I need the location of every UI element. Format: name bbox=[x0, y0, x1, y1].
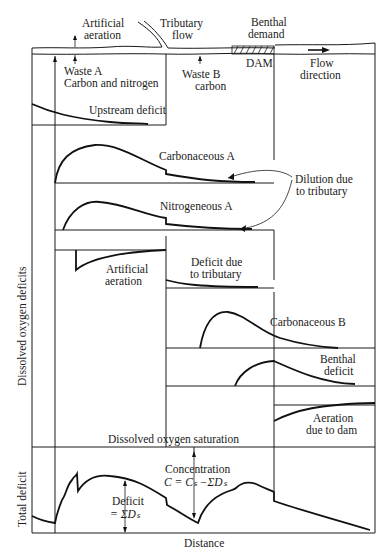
flow-direction-label: Flow bbox=[310, 57, 334, 69]
carbonaceous-a-label: Carbonaceous A bbox=[159, 150, 235, 162]
deficit-formula: = ΣDₛ bbox=[110, 508, 141, 520]
benthal-demand-label: Benthal bbox=[251, 16, 287, 28]
aeration-dam-label: Aeration bbox=[313, 412, 353, 424]
concentration-formula: C = Cₛ −ΣDₛ bbox=[164, 476, 228, 488]
svg-text:to tributary: to tributary bbox=[296, 185, 348, 198]
deficit-label: Deficit bbox=[112, 495, 145, 507]
y-axis-label-upper: Dissolved oxygen deficits bbox=[16, 266, 29, 386]
svg-text:Carbon and nitrogen: Carbon and nitrogen bbox=[64, 77, 159, 90]
x-axis-label: Distance bbox=[184, 537, 224, 549]
svg-text:aeration: aeration bbox=[84, 29, 121, 41]
tributary-deficit-curve bbox=[166, 280, 258, 287]
deficit-tributary-label: Deficit due bbox=[191, 256, 242, 268]
concentration-label: Concentration bbox=[165, 463, 230, 475]
svg-text:carbon: carbon bbox=[195, 80, 227, 92]
svg-text:direction: direction bbox=[300, 69, 341, 81]
frame bbox=[32, 54, 375, 533]
carbonaceous-b-label: Carbonaceous B bbox=[270, 316, 346, 328]
svg-text:deficit: deficit bbox=[324, 365, 354, 377]
waste-b-label: Waste B bbox=[182, 68, 221, 80]
svg-text:to tributary: to tributary bbox=[190, 268, 242, 281]
artificial-aeration-panel-label: Artificial bbox=[106, 263, 148, 275]
dilution-label: Dilution due bbox=[295, 173, 353, 185]
artificial-aeration-label: Artificial bbox=[82, 17, 124, 29]
y-axis-label-lower: Total deficit bbox=[16, 470, 28, 527]
waste-a-label: Waste A bbox=[64, 65, 103, 77]
svg-text:aeration: aeration bbox=[105, 275, 142, 287]
nitrogeneous-a-label: Nitrogeneous A bbox=[160, 200, 233, 213]
benthal-deficit-label: Benthal bbox=[320, 353, 356, 365]
upstream-deficit-label: Upstream deficit bbox=[89, 104, 167, 117]
do-saturation-label: Dissolved oxygen saturation bbox=[108, 433, 239, 446]
dam-label: DAM bbox=[246, 57, 273, 69]
svg-text:due to dam: due to dam bbox=[306, 424, 357, 436]
aeration-arrow-icon bbox=[73, 35, 77, 40]
svg-text:demand: demand bbox=[248, 28, 285, 40]
svg-text:flow: flow bbox=[172, 29, 194, 41]
oxygen-sag-diagram: Artificial aeration Tributary flow Benth… bbox=[0, 0, 392, 559]
